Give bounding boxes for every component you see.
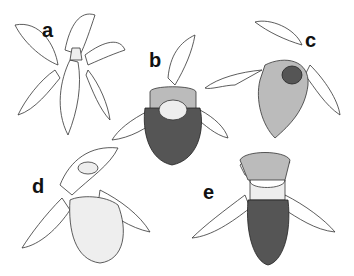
flower-b — [112, 35, 228, 165]
panel-label-a: a — [42, 20, 53, 40]
flower-d — [22, 148, 150, 263]
panel-label-d: d — [32, 176, 44, 196]
panel-label-b: b — [149, 50, 161, 70]
flower-a — [15, 14, 125, 135]
illustrations — [0, 0, 354, 276]
panel-label-c: c — [305, 30, 316, 50]
flower-e — [192, 153, 335, 266]
panel-label-e: e — [203, 182, 214, 202]
flower-c — [205, 21, 340, 138]
